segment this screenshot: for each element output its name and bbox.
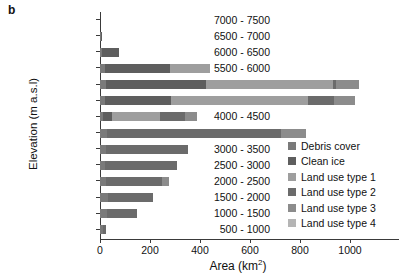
x-axis-tick: [250, 239, 251, 243]
stacked-bar[interactable]: [100, 209, 137, 218]
chart-row: 5000 - 5500: [100, 77, 375, 92]
legend-item[interactable]: Debris cover: [288, 138, 408, 154]
legend-swatch-icon: [288, 219, 296, 227]
bar-segment[interactable]: [101, 32, 103, 41]
x-axis-tick-label: 800: [275, 244, 325, 256]
y-axis-tick-label: 1000 - 1500: [194, 207, 270, 219]
stacked-bar[interactable]: [100, 96, 355, 105]
legend-label: Clean ice: [301, 155, 345, 167]
bar-segment[interactable]: [308, 96, 334, 105]
x-axis-tick-label: 600: [225, 244, 275, 256]
bar-segment[interactable]: [171, 96, 307, 105]
bar-segment[interactable]: [170, 64, 210, 73]
y-axis-tick-label: 4000 - 4500: [194, 110, 270, 122]
x-axis-tick-label: 0: [75, 244, 125, 256]
bar-segment[interactable]: [334, 96, 355, 105]
bar-segment[interactable]: [106, 80, 206, 89]
y-axis-tick-label: 1500 - 2000: [194, 191, 270, 203]
legend-label: Land use type 3: [301, 202, 376, 214]
chart-row: 4000 - 4500: [100, 109, 375, 124]
legend-label: Debris cover: [301, 140, 360, 152]
x-axis-title-close: ): [263, 259, 267, 273]
legend-swatch-icon: [288, 142, 296, 150]
legend-label: Land use type 4: [301, 217, 376, 229]
x-axis-tick: [100, 239, 101, 243]
stacked-bar[interactable]: [100, 80, 359, 89]
chart-row: 7000 - 7500: [100, 12, 375, 27]
bar-segment[interactable]: [100, 129, 107, 138]
chart-row: 6000 - 6500: [100, 44, 375, 59]
legend-label: Land use type 1: [301, 171, 376, 183]
bar-segment[interactable]: [107, 209, 137, 218]
x-axis-line: [100, 239, 399, 240]
chart-row: 6500 - 7000: [100, 28, 375, 43]
x-axis-title: Area (km2): [100, 258, 376, 273]
chart-figure: b Elevation (m a.s.l) Area (km2) 7000 - …: [0, 0, 411, 279]
y-axis-title: Elevation (m a.s.l): [27, 39, 39, 209]
panel-label: b: [8, 3, 15, 17]
stacked-bar[interactable]: [100, 64, 210, 73]
y-axis-tick: [96, 19, 100, 20]
legend-item[interactable]: Land use type 4: [288, 216, 408, 232]
legend-item[interactable]: Land use type 1: [288, 169, 408, 185]
stacked-bar[interactable]: [100, 48, 119, 57]
x-axis-tick: [300, 239, 301, 243]
bar-segment[interactable]: [112, 112, 161, 121]
bar-segment[interactable]: [162, 177, 170, 186]
chart-legend: Debris coverClean iceLand use type 1Land…: [288, 138, 408, 231]
bar-segment[interactable]: [106, 177, 162, 186]
bar-segment[interactable]: [105, 161, 178, 170]
stacked-bar[interactable]: [100, 145, 188, 154]
x-axis-tick: [200, 239, 201, 243]
bar-segment[interactable]: [107, 129, 281, 138]
y-axis-tick-label: 7000 - 7500: [194, 14, 270, 26]
x-axis-tick-label: 1000: [325, 244, 375, 256]
legend-label: Land use type 2: [301, 186, 376, 198]
legend-swatch-icon: [288, 188, 296, 196]
bar-segment[interactable]: [102, 48, 119, 57]
bar-segment[interactable]: [206, 80, 334, 89]
x-axis-title-main: Area (km: [209, 259, 258, 273]
x-axis-tick-label: 400: [175, 244, 225, 256]
legend-item[interactable]: Land use type 3: [288, 200, 408, 216]
bar-segment[interactable]: [336, 80, 360, 89]
bar-segment[interactable]: [185, 112, 196, 121]
bar-segment[interactable]: [105, 64, 170, 73]
bar-segment[interactable]: [105, 96, 171, 105]
bar-segment[interactable]: [106, 145, 189, 154]
chart-row: 4500 - 5000: [100, 93, 375, 108]
stacked-bar[interactable]: [100, 161, 177, 170]
x-axis-tick-label: 200: [125, 244, 175, 256]
bar-segment[interactable]: [103, 225, 106, 234]
bar-segment[interactable]: [160, 112, 185, 121]
legend-item[interactable]: Clean ice: [288, 154, 408, 170]
chart-row: 5500 - 6000: [100, 60, 375, 75]
stacked-bar[interactable]: [100, 129, 306, 138]
stacked-bar[interactable]: [100, 112, 197, 121]
y-axis-tick-label: 500 - 1000: [194, 223, 270, 235]
bar-segment[interactable]: [100, 193, 108, 202]
stacked-bar[interactable]: [100, 32, 102, 41]
legend-swatch-icon: [288, 204, 296, 212]
y-axis-tick-label: 2500 - 3000: [194, 159, 270, 171]
y-axis-tick-label: 2000 - 2500: [194, 175, 270, 187]
bar-segment[interactable]: [103, 112, 112, 121]
legend-swatch-icon: [288, 173, 296, 181]
legend-swatch-icon: [288, 157, 296, 165]
bar-segment[interactable]: [108, 193, 153, 202]
legend-item[interactable]: Land use type 2: [288, 185, 408, 201]
bar-segment[interactable]: [100, 209, 107, 218]
x-axis-tick: [150, 239, 151, 243]
stacked-bar[interactable]: [100, 193, 153, 202]
bar-segment[interactable]: [281, 129, 306, 138]
y-axis-tick-label: 6000 - 6500: [194, 46, 270, 58]
stacked-bar[interactable]: [100, 225, 106, 234]
stacked-bar[interactable]: [100, 177, 169, 186]
x-axis-tick: [350, 239, 351, 243]
y-axis-tick-label: 3000 - 3500: [194, 143, 270, 155]
y-axis-tick-label: 6500 - 7000: [194, 30, 270, 42]
